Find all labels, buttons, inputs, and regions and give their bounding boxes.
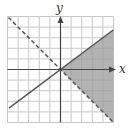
x-axis-label: x xyxy=(119,63,126,75)
shaded-region xyxy=(61,30,114,123)
y-axis-arrow-icon xyxy=(58,16,64,23)
inequality-graph xyxy=(0,0,131,131)
y-axis-label: y xyxy=(56,2,63,14)
